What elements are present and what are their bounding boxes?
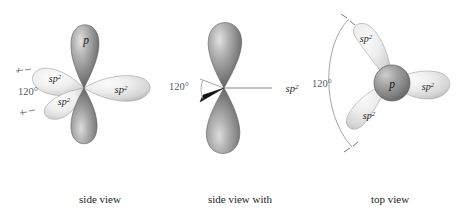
sp2-lobe-right: sp2 [84, 76, 150, 102]
p-label-side-view: p [82, 34, 89, 47]
sp2-label-top-lower-left: sp2 [363, 110, 376, 121]
angle-label-side-view: 120° [18, 86, 38, 97]
panel-top-view: sp2 sp2 sp2 p 120° [312, 14, 450, 152]
panel-side-view: sp2 sp2 sp2 p 120° [16, 25, 150, 144]
p-sphere-top-view: p [374, 65, 410, 101]
p-lobe-bottom-lines [206, 88, 239, 154]
caption-top-view-line1: top view [330, 193, 450, 207]
caption-mid-line1: side view with [165, 193, 315, 207]
angle-label-lines: 120° [169, 81, 189, 92]
p-lobe-top: p [71, 25, 99, 88]
angle-annotation-top-view: 120° [312, 14, 358, 152]
p-lobe-top-lines [208, 23, 241, 89]
caption-top-view: top view [330, 166, 450, 220]
panel-side-view-lines: sp2 120° [169, 23, 299, 154]
caption-side-view-lines: side view with the sp2 orbitals represen… [165, 166, 315, 222]
sp2-line-right: sp2 [224, 83, 299, 95]
sp2-label-lines: sp2 [286, 83, 299, 95]
angle-label-top-view: 120° [312, 78, 332, 89]
p-label-top-view: p [388, 78, 395, 91]
caption-side-view: side view [30, 166, 170, 220]
caption-side-view-line1: side view [30, 193, 170, 207]
